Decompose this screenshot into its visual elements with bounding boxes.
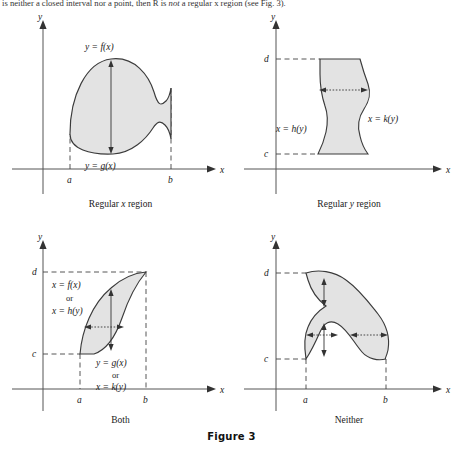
caption-suffix: Neither xyxy=(335,415,364,425)
caption-neither-region: Neither xyxy=(238,415,460,425)
region-shape xyxy=(80,272,146,354)
tick-label-a: a xyxy=(77,395,82,405)
sweep-arrowhead-down xyxy=(108,344,113,351)
caption-prefix: Regular xyxy=(317,199,349,209)
caption-suffix: region xyxy=(126,199,153,209)
tick-label-d: d xyxy=(264,268,269,278)
caption-regular-y-region: Regular y region xyxy=(238,199,460,209)
upper-left-curve-or: or xyxy=(66,293,73,303)
x-axis-label: x xyxy=(445,165,451,175)
region-shape xyxy=(70,59,171,154)
intro-text-before: is neither a closed interval nor a point… xyxy=(2,0,169,8)
tick-label-d: d xyxy=(32,267,37,277)
figure-label: Figure 3 xyxy=(0,431,463,442)
lower-right-curve-label-2: x = k(y) xyxy=(95,382,126,393)
lower-right-curve-or: or xyxy=(112,370,119,380)
tick-label-b: b xyxy=(143,395,148,405)
left-curve-label: x = h(y) xyxy=(275,124,307,135)
sweep-arrowhead-right xyxy=(117,324,124,329)
tick-label-d: d xyxy=(264,54,269,64)
y-axis-label: y xyxy=(270,12,276,22)
upper-left-curve-label-1: x = f(x) xyxy=(51,280,81,291)
x-axis-arrowhead xyxy=(207,385,216,392)
region-shape xyxy=(318,59,370,154)
y-axis-label: y xyxy=(270,232,276,242)
tick-label-c: c xyxy=(264,354,269,364)
intro-paragraph: is neither a closed interval nor a point… xyxy=(2,0,461,8)
x-axis-arrowhead xyxy=(433,165,442,172)
y-axis-label: y xyxy=(37,12,43,22)
caption-suffix: Both xyxy=(111,415,129,425)
lower-right-curve-label-1: y = g(x) xyxy=(95,358,127,369)
right-curve-label: x = k(y) xyxy=(367,114,398,125)
x-axis-label: x xyxy=(219,165,225,175)
intro-text-after: a regular x region (see Fig. 3). xyxy=(180,0,286,8)
x-axis-label: x xyxy=(445,385,451,395)
x-axis-arrowhead xyxy=(433,385,442,392)
panel-regular-x-region: y x y = f(x) y = g(x) a b xyxy=(8,14,233,199)
tick-label-c: c xyxy=(32,349,37,359)
tick-label-b: b xyxy=(383,395,388,405)
caption-both-region: Both xyxy=(8,415,233,425)
x-axis-label: x xyxy=(219,385,225,395)
intro-text-emphasis: not xyxy=(169,0,180,8)
tick-label-a: a xyxy=(303,395,308,405)
sweep-arrowhead-down-2 xyxy=(321,350,326,357)
upper-left-curve-label-2: x = h(y) xyxy=(51,306,83,317)
lower-curve-label: y = g(x) xyxy=(84,161,116,172)
upper-curve-label: y = f(x) xyxy=(84,42,114,53)
caption-suffix: region xyxy=(354,199,381,209)
tick-label-c: c xyxy=(264,149,269,159)
panel-neither-region: y x d c a b xyxy=(238,226,460,416)
y-axis-label: y xyxy=(37,232,43,242)
caption-prefix: Regular xyxy=(89,199,121,209)
tick-label-a: a xyxy=(67,175,72,185)
caption-regular-x-region: Regular x region xyxy=(8,199,233,209)
panel-both-region: y x x = f(x) or x = h(y) y = g(x) or x =… xyxy=(8,226,233,416)
sweep-arrowhead-right-1 xyxy=(331,332,338,337)
panel-regular-y-region: y x x = h(y) x = k(y) d c xyxy=(238,14,460,199)
x-axis-arrowhead xyxy=(207,165,216,172)
tick-label-b: b xyxy=(168,175,173,185)
region-shape xyxy=(305,271,389,360)
